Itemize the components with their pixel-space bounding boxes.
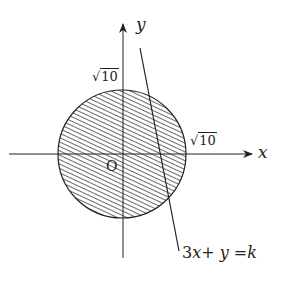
diagram-canvas xyxy=(0,0,286,281)
coordinate-diagram: y x O √10 √10 3x+ y =k xyxy=(0,0,286,281)
y-intercept-label: √10 xyxy=(92,70,119,83)
x-intercept-label: √10 xyxy=(190,134,217,147)
line-equation-label: 3x+ y =k xyxy=(182,245,257,261)
y-axis-label: y xyxy=(136,16,146,33)
x-axis-label: x xyxy=(258,144,268,161)
origin-label: O xyxy=(106,159,117,173)
